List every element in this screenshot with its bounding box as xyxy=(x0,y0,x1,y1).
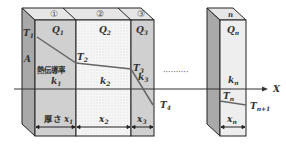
ellipsis: ·········· xyxy=(163,68,188,77)
layer-number-2: ② xyxy=(96,9,104,19)
temperature-t4: T4 xyxy=(160,100,171,111)
thickness-x1: 厚さx1 xyxy=(44,114,73,125)
conductivity-label: 熱伝導率 xyxy=(37,65,66,75)
layer-number-3: ③ xyxy=(137,9,145,19)
area-label: A xyxy=(23,54,31,64)
layer-number-1: ① xyxy=(50,9,58,19)
temperature-tn1: Tn+1 xyxy=(250,101,270,112)
x-axis-arrowhead xyxy=(262,87,268,92)
left-block-top-face xyxy=(22,8,154,20)
heat-conduction-diagram: ·········· ① ② ③ n Q1 Q2 Q3 Qn T1 T2 T3 … xyxy=(0,0,286,149)
right-block-side-face xyxy=(207,8,220,136)
layer-number-n: n xyxy=(228,10,233,19)
axis-label: X xyxy=(272,84,281,94)
